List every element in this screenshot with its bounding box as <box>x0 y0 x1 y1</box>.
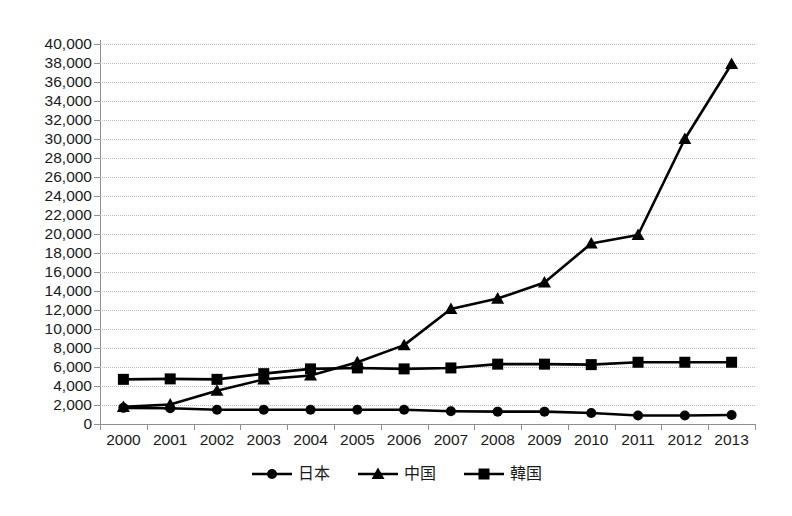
x-tick-label: 2007 <box>434 432 468 448</box>
data-point-square <box>305 363 316 374</box>
x-tick-label: 2000 <box>106 432 140 448</box>
y-axis-tick-labels: 02,0004,0006,0008,00010,00012,00014,0001… <box>0 44 92 424</box>
y-tick-label: 0 <box>0 416 92 432</box>
x-tick-mark <box>474 424 475 430</box>
data-point-circle <box>399 405 409 415</box>
y-tick-label: 40,000 <box>0 36 92 52</box>
x-tick-mark <box>194 424 195 430</box>
series-lines <box>100 44 755 424</box>
x-tick-mark <box>755 424 756 430</box>
y-tick-label: 36,000 <box>0 74 92 90</box>
data-point-triangle <box>678 133 691 145</box>
legend-entry-韓国[interactable]: 韓国 <box>462 466 542 482</box>
y-tick-label: 16,000 <box>0 264 92 280</box>
y-tick-label: 2,000 <box>0 397 92 413</box>
x-tick-mark <box>615 424 616 430</box>
data-point-square <box>539 359 550 370</box>
data-point-square <box>165 373 176 384</box>
data-point-square <box>492 359 503 370</box>
data-point-circle <box>352 405 362 415</box>
x-tick-mark <box>381 424 382 430</box>
data-point-circle <box>680 410 690 420</box>
data-point-triangle <box>632 228 645 240</box>
legend-label: 日本 <box>298 466 330 482</box>
x-tick-mark <box>661 424 662 430</box>
y-tick-label: 20,000 <box>0 226 92 242</box>
x-axis-tick-labels: 2000200120022003200420052006200720082009… <box>100 432 755 456</box>
series-韓国 <box>118 357 737 385</box>
y-tick-label: 10,000 <box>0 321 92 337</box>
x-tick-mark <box>568 424 569 430</box>
series-中国 <box>117 57 738 412</box>
legend-label: 中国 <box>404 466 436 482</box>
y-tick-label: 14,000 <box>0 283 92 299</box>
data-point-square <box>118 374 129 385</box>
y-tick-label: 28,000 <box>0 150 92 166</box>
data-point-circle <box>259 405 269 415</box>
y-tick-label: 32,000 <box>0 112 92 128</box>
data-point-circle <box>446 406 456 416</box>
data-point-circle <box>493 407 503 417</box>
data-point-square <box>399 363 410 374</box>
data-point-square <box>479 469 490 480</box>
x-tick-mark <box>521 424 522 430</box>
legend-label: 韓国 <box>510 466 542 482</box>
data-point-square <box>679 357 690 368</box>
chart-legend: 日本中国韓国 <box>0 466 792 482</box>
x-tick-label: 2003 <box>247 432 281 448</box>
y-tick-label: 4,000 <box>0 378 92 394</box>
x-tick-label: 2008 <box>480 432 514 448</box>
x-tick-mark <box>240 424 241 430</box>
data-point-circle <box>306 405 316 415</box>
x-tick-mark <box>428 424 429 430</box>
x-tick-label: 2004 <box>293 432 327 448</box>
data-point-square <box>352 362 363 373</box>
plot-area <box>100 44 755 424</box>
x-tick-mark <box>100 424 101 430</box>
data-point-circle <box>212 405 222 415</box>
x-tick-label: 2001 <box>153 432 187 448</box>
data-point-square <box>445 362 456 373</box>
x-tick-mark <box>334 424 335 430</box>
data-point-circle <box>267 469 277 479</box>
x-tick-label: 2010 <box>574 432 608 448</box>
y-tick-label: 18,000 <box>0 245 92 261</box>
x-tick-label: 2009 <box>527 432 561 448</box>
y-tick-label: 26,000 <box>0 169 92 185</box>
legend-entry-日本[interactable]: 日本 <box>250 466 330 482</box>
data-point-square <box>211 374 222 385</box>
data-point-circle <box>586 408 596 418</box>
y-tick-label: 8,000 <box>0 340 92 356</box>
data-point-square <box>726 357 737 368</box>
x-tick-mark <box>147 424 148 430</box>
y-tick-label: 22,000 <box>0 207 92 223</box>
y-tick-label: 6,000 <box>0 359 92 375</box>
y-tick-label: 30,000 <box>0 131 92 147</box>
x-tick-label: 2005 <box>340 432 374 448</box>
data-point-square <box>633 357 644 368</box>
x-tick-label: 2013 <box>714 432 748 448</box>
x-tick-label: 2011 <box>621 432 654 448</box>
legend-marker-triangle-icon <box>356 466 400 482</box>
line-chart-figure: 02,0004,0006,0008,00010,00012,00014,0001… <box>0 0 792 516</box>
x-tick-label: 2006 <box>387 432 421 448</box>
y-tick-label: 24,000 <box>0 188 92 204</box>
series-日本 <box>118 403 736 421</box>
data-point-circle <box>539 407 549 417</box>
data-point-circle <box>727 410 737 420</box>
legend-entry-中国[interactable]: 中国 <box>356 466 436 482</box>
data-point-circle <box>633 410 643 420</box>
y-tick-label: 38,000 <box>0 55 92 71</box>
y-tick-label: 12,000 <box>0 302 92 318</box>
data-point-square <box>586 359 597 370</box>
x-tick-label: 2012 <box>668 432 702 448</box>
data-point-square <box>258 368 269 379</box>
x-tick-mark <box>708 424 709 430</box>
y-tick-label: 34,000 <box>0 93 92 109</box>
x-tick-mark <box>287 424 288 430</box>
legend-marker-square-icon <box>462 466 506 482</box>
data-point-triangle <box>725 57 738 69</box>
legend-marker-circle-icon <box>250 466 294 482</box>
x-tick-label: 2002 <box>200 432 234 448</box>
